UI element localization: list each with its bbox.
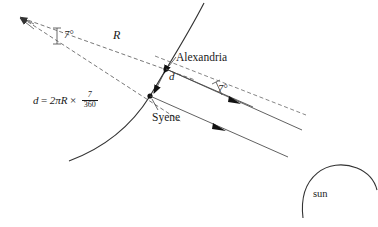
label-arc-distance: d xyxy=(169,71,175,82)
formula-times: × xyxy=(70,94,76,106)
formula-coefficient: 2πR xyxy=(50,94,68,106)
label-syene: Syene xyxy=(152,112,180,124)
sun-ray-lower xyxy=(150,96,288,157)
label-radius: R xyxy=(113,29,120,41)
label-sun: sun xyxy=(313,189,328,200)
eratosthenes-diagram: Alexandria Syene sun R d 7° 7° d = 2πR ×… xyxy=(0,0,378,227)
formula-lhs: d xyxy=(33,94,39,106)
sun-ray-lower-arrow xyxy=(212,123,226,131)
arc-distance-bracket xyxy=(154,73,164,93)
sun-ray-upper-dashed xyxy=(155,56,306,115)
formula-equals: = xyxy=(41,94,47,106)
earth-arc xyxy=(69,3,204,161)
sun-ray-upper-arrow xyxy=(228,96,241,104)
syene-leader xyxy=(152,99,158,110)
apex-arrow-lower xyxy=(20,18,34,29)
formula-numerator: 7 xyxy=(86,91,94,100)
apex-arrow-upper xyxy=(20,17,34,24)
formula-denominator: 360 xyxy=(82,101,98,110)
formula-arc-distance: d = 2πR × 7 360 xyxy=(33,91,98,109)
formula-fraction: 7 360 xyxy=(82,91,98,109)
label-alexandria: Alexandria xyxy=(176,52,227,64)
label-angle-at-center: 7° xyxy=(64,30,73,41)
label-angle-at-alexandria: 7° xyxy=(218,84,227,95)
